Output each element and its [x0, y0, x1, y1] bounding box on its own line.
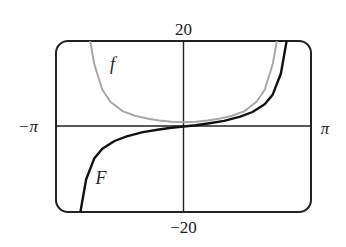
y-min-tick-label: −20	[170, 218, 197, 237]
series-F-label: F	[95, 168, 108, 188]
chart-canvas: 20 −20 −π π f F	[0, 0, 346, 247]
y-max-tick-label: 20	[175, 20, 192, 39]
x-min-tick-label: −π	[18, 117, 38, 136]
series-f-label: f	[110, 54, 118, 74]
x-max-tick-label: π	[321, 119, 330, 138]
